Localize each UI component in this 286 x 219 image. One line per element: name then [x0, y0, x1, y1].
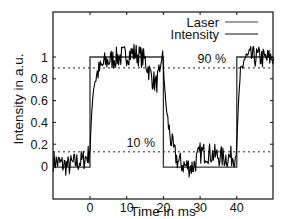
annotation-10-percent: 10 % [127, 136, 156, 150]
y-tick-label: 0.4 [31, 116, 48, 130]
y-tick-label: 0 [41, 160, 48, 174]
x-tick-label: 0 [87, 201, 94, 215]
y-tick-label: 0.2 [31, 138, 48, 152]
series-layer [53, 44, 273, 177]
plot: 01020304000.20.40.60.81 Time in ms Inten… [0, 0, 286, 219]
y-tick-label: 0.8 [31, 72, 48, 86]
y-axis-title: Intensity in a.u. [11, 54, 26, 145]
annotation-90-percent: 90 % [198, 52, 227, 66]
legend: Laser Intensity [171, 15, 258, 42]
y-tick-label: 0.6 [31, 94, 48, 108]
x-axis-title: Time in ms [130, 204, 196, 219]
tick-labels: 01020304000.20.40.60.81 [31, 51, 244, 216]
y-tick-label: 1 [41, 51, 48, 65]
legend-label-intensity: Intensity [171, 27, 220, 42]
x-tick-label: 40 [230, 201, 244, 215]
